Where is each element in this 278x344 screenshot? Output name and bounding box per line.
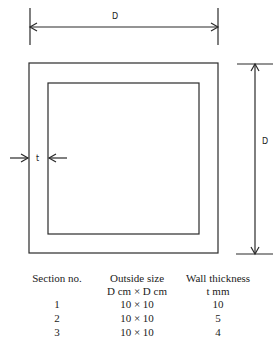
header-wall-thickness-unit: t mm bbox=[178, 285, 258, 298]
row-2-section: 2 bbox=[22, 312, 92, 325]
row-2-outside-size: 10 × 10 bbox=[100, 312, 174, 325]
header-outside-size: Outside size bbox=[100, 272, 174, 285]
square-section-diagram: D D t bbox=[0, 0, 278, 270]
row-1-section: 1 bbox=[22, 298, 92, 311]
row-3-section: 3 bbox=[22, 326, 92, 339]
header-section-no: Section no. bbox=[22, 272, 92, 285]
top-dimension-line bbox=[30, 8, 218, 45]
row-3-wall-thickness: 4 bbox=[178, 326, 258, 339]
right-dimension-line bbox=[236, 64, 273, 254]
right-dimension-label: D bbox=[262, 137, 268, 146]
header-outside-size-unit: D cm × D cm bbox=[100, 285, 174, 298]
inner-square bbox=[48, 83, 199, 234]
row-1-wall-thickness: 10 bbox=[178, 298, 258, 311]
header-wall-thickness: Wall thickness bbox=[178, 272, 258, 285]
row-1-outside-size: 10 × 10 bbox=[100, 298, 174, 311]
wall-thickness-label: t bbox=[36, 154, 39, 163]
row-3-outside-size: 10 × 10 bbox=[100, 326, 174, 339]
row-2-wall-thickness: 5 bbox=[178, 312, 258, 325]
top-dimension-label: D bbox=[112, 12, 118, 21]
